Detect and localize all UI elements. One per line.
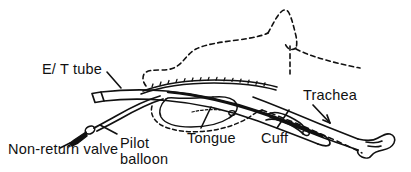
leader-trachea-arrow [313,105,330,123]
label-trachea: Trachea [303,88,357,103]
head-profile-dashed [143,10,360,86]
leader-pilot-balloon [100,125,117,134]
label-pilot-balloon-line1: Pilot [120,135,149,151]
palate-hatching [152,77,265,87]
label-non-return-valve: Non-return valve [8,142,118,157]
label-pilot-balloon-line2: balloon [120,151,168,167]
label-pilot-balloon: Pilot balloon [120,136,168,167]
label-et-tube: E/ T tube [42,62,102,77]
tongue-inner-detail [192,110,220,112]
leader-et-tube [107,72,121,88]
label-tongue: Tongue [187,131,236,146]
tube-connector [92,92,104,103]
figure-endotracheal-tube-diagram: E/ T tube Non-return valve Pilot balloon… [0,0,411,172]
label-cuff: Cuff [261,131,288,146]
